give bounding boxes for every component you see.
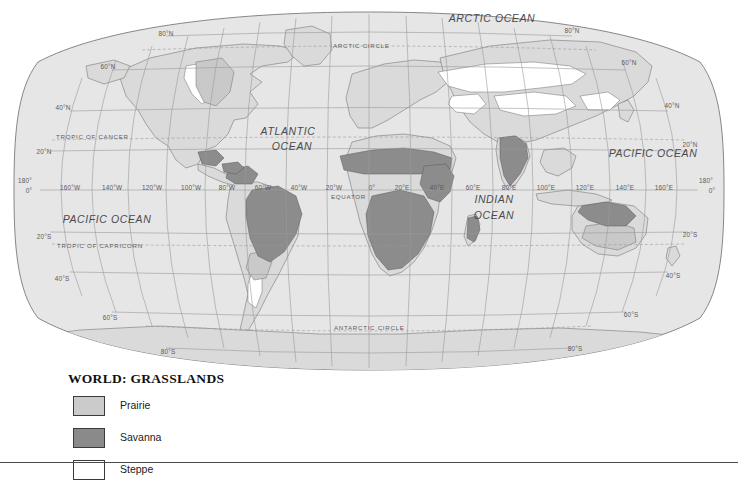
legend-title: WORLD: GRASSLANDS [68,371,224,387]
longitude-label: 80°W [219,184,236,191]
antimeridian-label: 0° [26,187,33,194]
longitude-label: 0° [369,184,376,191]
longitude-label: 140°E [616,184,634,191]
special-line-label: ANTARCTIC CIRCLE [334,324,405,331]
latitude-label: 40°N [55,104,70,111]
latitude-label: 60°S [624,311,639,318]
special-line-label: EQUATOR [331,193,366,200]
legend-swatch-savanna [73,428,105,448]
ocean-label: PACIFIC OCEAN [609,147,698,159]
longitude-label: 100°E [537,184,555,191]
latitude-label: 60°N [100,63,115,70]
longitude-label: 20°E [395,184,410,191]
antimeridian-label: 0° [709,187,716,194]
ocean-label: OCEAN [272,140,312,152]
latitude-label: 80°N [564,27,579,34]
longitude-label: 120°E [576,184,594,191]
latitude-label: 60°N [621,59,636,66]
longitude-label: 40°E [430,184,445,191]
latitude-label: 80°S [568,345,583,352]
latitude-label: 40°N [664,102,679,109]
latitude-label: 80°N [158,30,173,37]
map-legend: WORLD: GRASSLANDS Prairie Savanna Steppe [0,366,738,466]
ocean-label: ATLANTIC [260,125,316,137]
ocean-label: INDIAN [474,193,513,205]
ocean-label: ARCTIC OCEAN [448,12,536,24]
special-line-label: ARCTIC CIRCLE [333,42,390,49]
latitude-label: 80°S [161,348,176,355]
longitude-label: 160°E [655,184,673,191]
legend-label-savanna: Savanna [120,431,161,443]
ocean-label: OCEAN [474,209,514,221]
antimeridian-label: 180° [18,177,32,184]
latitude-label: 20°S [683,231,698,238]
special-line-label: TROPIC OF CAPRICORN [57,242,143,249]
latitude-label: 20°S [37,233,52,240]
legend-label-steppe: Steppe [120,463,153,475]
world-grasslands-figure: ARCTIC OCEANATLANTICOCEANPACIFIC OCEANPA… [0,0,738,489]
legend-swatch-prairie [73,396,105,416]
legend-label-prairie: Prairie [120,399,150,411]
longitude-label: 60°W [255,184,272,191]
ocean-label: PACIFIC OCEAN [63,213,152,225]
antimeridian-label: 180° [699,177,713,184]
longitude-label: 160°W [60,184,81,191]
longitude-label: 100°W [181,184,202,191]
special-line-label: TROPIC OF CANCER [56,133,129,140]
longitude-label: 60°E [466,184,481,191]
longitude-label: 120°W [142,184,163,191]
longitude-label: 20°W [326,184,343,191]
latitude-label: 20°N [36,148,51,155]
legend-swatch-steppe [73,460,105,480]
longitude-label: 40°W [291,184,308,191]
latitude-label: 60°S [103,314,118,321]
latitude-label: 40°S [55,275,70,282]
longitude-label: 80°E [502,184,517,191]
longitude-label: 140°W [102,184,123,191]
bottom-divider [0,462,738,463]
latitude-label: 20°N [682,141,697,148]
latitude-label: 40°S [666,272,681,279]
